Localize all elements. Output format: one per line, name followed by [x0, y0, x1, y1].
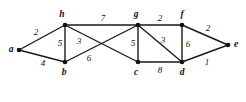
graph-edge-d-e: [182, 45, 228, 62]
graph-edge-a-h: [19, 25, 65, 50]
edge-layer: [19, 25, 228, 62]
graph-vertex-g: [136, 23, 141, 28]
graph-vertex-c: [136, 60, 141, 65]
graph-vertex-d: [180, 60, 185, 65]
graph-canvas: [0, 0, 246, 102]
graph-vertex-f: [180, 23, 185, 28]
graph-vertex-h: [63, 23, 68, 28]
graph-edge-g-d: [138, 25, 182, 62]
graph-edge-a-b: [19, 50, 65, 62]
weighted-graph-figure: 2457365382621ahbgcdfe: [0, 0, 246, 102]
graph-vertex-b: [63, 60, 68, 65]
graph-edge-f-e: [182, 25, 228, 45]
graph-vertex-a: [17, 48, 22, 53]
graph-vertex-e: [226, 43, 231, 48]
